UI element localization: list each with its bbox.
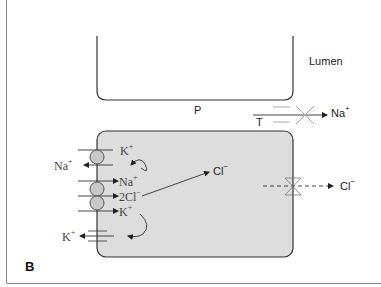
cl-cotransport-label: 2Cl− (119, 191, 141, 203)
k-pump-label: K+ (120, 145, 133, 157)
cl-apical-out-label: Cl− (340, 181, 355, 192)
nkcc-circle-2 (90, 196, 104, 210)
k-channel-out-label: K+ (62, 231, 75, 243)
upper-cell-outline (97, 36, 293, 100)
tight-junction-label: T (256, 117, 263, 128)
tight-junction-na-pathway (253, 106, 327, 124)
lumen-label: Lumen (309, 56, 343, 67)
cl-intracellular-label: Cl− (213, 166, 228, 177)
diagram-canvas (0, 0, 381, 287)
na-lumen-label: Na+ (331, 108, 350, 119)
na-pump-out-label: Na+ (54, 160, 73, 172)
na-cotransport-label: Na+ (119, 176, 138, 188)
na-k-pump-circle (90, 150, 104, 164)
k-cotransport-label: K+ (119, 206, 132, 218)
paracellular-label: P (194, 105, 201, 116)
panel-label: B (25, 259, 34, 274)
nkcc-circle-1 (90, 182, 104, 196)
